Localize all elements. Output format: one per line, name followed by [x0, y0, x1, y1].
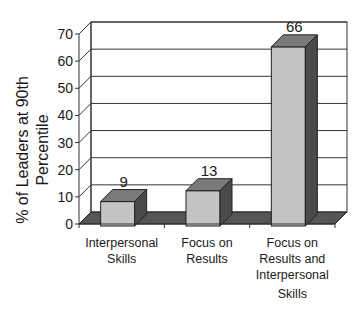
- y-tick-label: 60: [57, 53, 73, 69]
- y-tick-label: 10: [57, 189, 73, 205]
- y-tick-label: 40: [57, 107, 73, 123]
- y-tick-label: 70: [57, 26, 73, 42]
- x-tick-label: Focus onResults andInterpersonalSkills: [256, 236, 329, 301]
- y-tick-label: 30: [57, 135, 73, 151]
- x-tick-label: InterpersonalSkills: [85, 236, 158, 266]
- data-label: 13: [201, 162, 218, 179]
- bar-chart: 010203040506070 91366 InterpersonalSkill…: [0, 0, 363, 309]
- data-label: 66: [286, 18, 303, 35]
- x-axis: InterpersonalSkillsFocus onResultsFocus …: [79, 224, 335, 301]
- y-axis-label: % of Leaders at 90thPercentile: [14, 76, 51, 224]
- x-tick-label: Focus onResults: [181, 236, 232, 266]
- y-axis: 010203040506070: [57, 26, 79, 232]
- y-tick-label: 50: [57, 80, 73, 96]
- data-label: 9: [119, 173, 127, 190]
- y-tick-label: 20: [57, 162, 73, 178]
- svg-text:% of Leaders at 90thPercentile: % of Leaders at 90thPercentile: [14, 76, 51, 224]
- y-tick-label: 0: [65, 216, 73, 232]
- bar: 66: [271, 18, 317, 226]
